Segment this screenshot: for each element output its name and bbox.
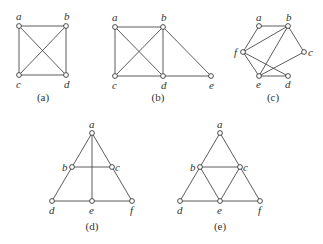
edge-b-e — [163, 27, 211, 76]
vertex-a — [257, 24, 262, 29]
vertex-label-a: a — [256, 11, 262, 23]
graph-c: abcdef(c) — [234, 11, 313, 104]
edge-a-c — [92, 133, 112, 167]
vertex-label-c: c — [115, 161, 120, 173]
vertex-label-b: b — [286, 11, 292, 23]
graph-caption: (b) — [152, 91, 165, 104]
vertex-label-b: b — [161, 11, 167, 23]
vertex-label-e: e — [209, 79, 214, 91]
vertex-a — [113, 25, 118, 30]
vertex-a — [17, 24, 22, 29]
graph-caption: (e) — [214, 220, 227, 233]
vertex-e — [90, 199, 95, 204]
vertex-b — [64, 24, 69, 29]
graph-d: abcdef(d) — [49, 118, 135, 233]
graph-caption: (d) — [86, 220, 99, 233]
vertex-b — [161, 25, 166, 30]
vertex-label-e: e — [217, 204, 222, 216]
vertex-b — [198, 165, 203, 170]
vertex-c — [110, 165, 115, 170]
vertex-label-b: b — [64, 10, 70, 22]
edge-b-f — [243, 26, 288, 52]
vertex-label-a: a — [112, 11, 118, 23]
edge-b-e — [200, 167, 220, 201]
vertex-label-f: f — [234, 46, 239, 58]
vertex-label-b: b — [190, 161, 196, 173]
vertex-label-c: c — [243, 161, 248, 173]
vertex-label-a: a — [89, 118, 95, 130]
vertex-a — [218, 131, 223, 136]
vertex-d — [178, 199, 183, 204]
vertex-a — [90, 131, 95, 136]
vertex-c — [302, 50, 307, 55]
edge-a-c — [220, 133, 240, 167]
vertex-label-f: f — [258, 204, 263, 216]
vertex-f — [130, 199, 135, 204]
graph-e: abcdef(e) — [177, 118, 263, 233]
vertex-b — [286, 24, 291, 29]
edge-a-b — [72, 133, 92, 167]
edge-a-b — [200, 133, 220, 167]
edge-b-c — [288, 26, 304, 52]
vertex-label-f: f — [130, 204, 135, 216]
vertex-label-d: d — [161, 79, 167, 91]
graph-caption: (c) — [267, 91, 280, 104]
vertex-d — [64, 73, 69, 78]
vertex-d — [161, 74, 166, 79]
vertex-c — [17, 73, 22, 78]
vertex-label-c: c — [112, 79, 117, 91]
vertex-f — [241, 50, 246, 55]
vertex-label-c: c — [308, 46, 313, 58]
vertex-label-b: b — [62, 161, 68, 173]
vertex-label-e: e — [89, 204, 94, 216]
vertex-label-d: d — [285, 78, 291, 90]
vertex-label-a: a — [217, 118, 223, 130]
vertex-e — [209, 74, 214, 79]
vertex-label-d: d — [177, 204, 183, 216]
vertex-b — [70, 165, 75, 170]
graph-caption: (a) — [37, 91, 50, 104]
vertex-c — [113, 74, 118, 79]
graph-figure: abcd(a) abcde(b) abcdef(c) abcdef(d) abc… — [0, 0, 323, 244]
vertex-f — [258, 199, 263, 204]
graph-a: abcd(a) — [16, 10, 70, 104]
vertex-d — [50, 199, 55, 204]
vertex-c — [238, 165, 243, 170]
vertex-e — [218, 199, 223, 204]
vertex-label-e: e — [256, 78, 261, 90]
vertex-label-d: d — [64, 78, 70, 90]
vertex-label-d: d — [49, 204, 55, 216]
graph-b: abcde(b) — [112, 11, 214, 104]
vertex-label-a: a — [16, 10, 22, 22]
edge-c-e — [220, 167, 240, 201]
edge-a-f — [243, 26, 259, 52]
vertex-label-c: c — [16, 78, 21, 90]
edge-f-e — [243, 52, 259, 76]
